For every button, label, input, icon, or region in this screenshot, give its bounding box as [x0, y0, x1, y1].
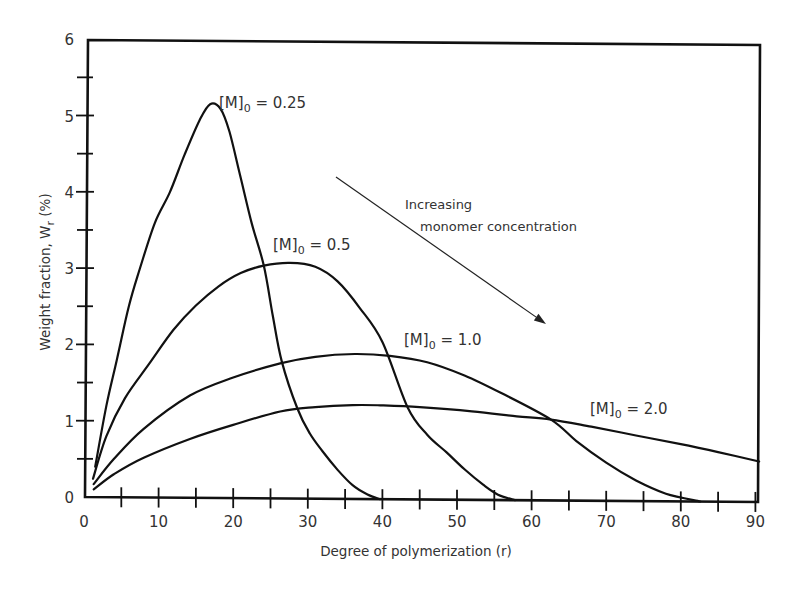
y-axis-label-unit: (%) [37, 193, 53, 221]
y-tick-label: 3 [64, 260, 74, 278]
x-tick-label: 70 [597, 513, 616, 531]
plot-frame [85, 40, 760, 502]
x-axis-ticks: 0102030405060708090 [79, 487, 765, 531]
x-tick-label: 20 [224, 513, 243, 531]
chart-canvas: 0123456 0102030405060708090 [M]0 = 0.25[… [0, 0, 794, 592]
series-curves [93, 103, 759, 501]
annotation-line-1: Increasing [405, 197, 472, 212]
series-curve-2 [94, 354, 701, 502]
x-tick-label: 90 [746, 513, 765, 531]
x-axis-label: Degree of polymerization (r) [320, 543, 512, 559]
x-tick-label: 80 [671, 513, 690, 531]
increasing-concentration-annotation: Increasing monomer concentration [336, 177, 577, 324]
x-tick-label: 50 [447, 513, 466, 531]
series-label-0: [M]0 = 0.25 [219, 94, 306, 115]
y-tick-label: 2 [64, 336, 74, 354]
y-tick-label: 5 [64, 108, 74, 126]
x-tick-label: 0 [79, 513, 89, 531]
y-axis-label: Weight fraction, Wr (%) [37, 193, 57, 350]
x-tick-label: 60 [522, 513, 541, 531]
arrowhead-icon [534, 314, 546, 324]
y-axis-label-main: Weight fraction, W [37, 226, 53, 351]
y-tick-label: 0 [64, 489, 74, 507]
series-curve-1 [93, 263, 515, 500]
x-tick-label: 10 [149, 513, 168, 531]
series-curve-0 [95, 103, 380, 499]
series-labels: [M]0 = 0.25[M]0 = 0.5[M]0 = 1.0[M]0 = 2.… [219, 94, 668, 421]
annotation-line-2: monomer concentration [420, 219, 577, 234]
series-label-3: [M]0 = 2.0 [590, 400, 668, 421]
y-axis-ticks: 0123456 [64, 31, 94, 507]
y-tick-label: 1 [64, 413, 74, 431]
series-label-1: [M]0 = 0.5 [273, 236, 351, 257]
x-tick-label: 30 [298, 513, 317, 531]
series-label-2: [M]0 = 1.0 [404, 331, 482, 352]
x-tick-label: 40 [373, 513, 392, 531]
y-tick-label: 4 [64, 184, 74, 202]
y-tick-label: 6 [64, 31, 74, 49]
